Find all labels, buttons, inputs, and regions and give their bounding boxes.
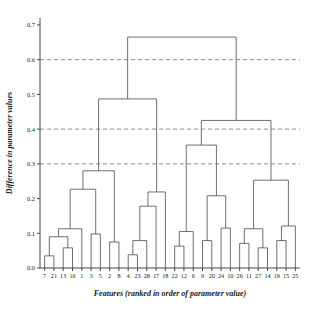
- dendrogram-link: [240, 243, 249, 268]
- dendrogram-link: [221, 228, 230, 268]
- leaf-label-14: 14: [264, 272, 270, 279]
- dendrogram-link: [254, 180, 289, 229]
- leaf-label-13: 13: [60, 272, 66, 279]
- dendrogram-link: [244, 229, 263, 248]
- dendrogram-link: [207, 196, 226, 241]
- leaf-label-18: 18: [162, 272, 168, 279]
- y-tick-label: 0.0: [27, 264, 35, 271]
- leaf-label-23: 23: [134, 272, 140, 279]
- dendrogram-link: [49, 237, 68, 256]
- dendrogram-link: [175, 246, 184, 268]
- dendrogram-link: [133, 241, 147, 268]
- leaf-label-6: 6: [192, 272, 195, 279]
- dendrogram-link: [186, 145, 216, 231]
- dendrogram-link: [281, 226, 295, 268]
- x-axis-title: Features (ranked in order of parameter v…: [93, 289, 247, 298]
- leaf-label-15: 15: [283, 272, 289, 279]
- leaf-label-4: 4: [127, 272, 130, 279]
- dendrogram-link: [148, 192, 165, 268]
- dendrogram-link: [258, 248, 267, 268]
- dendrogram-plot: 0.00.10.20.30.40.50.60.7 721131613528423…: [0, 0, 309, 312]
- dendrogram-link: [63, 248, 72, 268]
- leaf-label-17: 17: [153, 272, 159, 279]
- dendrogram-link: [128, 255, 137, 268]
- leaf-label-1: 1: [80, 272, 83, 279]
- reference-lines-group: [40, 60, 300, 164]
- leaf-label-3: 3: [90, 272, 93, 279]
- leaf-label-22: 22: [172, 272, 178, 279]
- leaf-label-16: 16: [69, 272, 75, 279]
- dendrogram-link: [83, 171, 114, 242]
- y-tick-label: 0.1: [27, 230, 35, 237]
- leaf-label-8: 8: [117, 272, 120, 279]
- dendrogram-link: [99, 99, 157, 192]
- dendrogram-link: [59, 229, 82, 268]
- dendrogram-link: [70, 189, 96, 234]
- leaf-label-2: 2: [108, 272, 111, 279]
- leaf-label-24: 24: [218, 272, 224, 279]
- leaf-label-28: 28: [144, 272, 150, 279]
- leaf-label-10: 10: [227, 272, 233, 279]
- y-tick-label: 0.5: [27, 91, 35, 98]
- leaf-label-26: 26: [237, 272, 243, 279]
- leaf-label-27: 27: [255, 272, 261, 279]
- dendrogram-link: [140, 206, 156, 268]
- dendrogram-links-group: [45, 37, 296, 268]
- x-axis: [40, 268, 300, 271]
- y-tick-label: 0.4: [27, 126, 36, 133]
- dendrogram-link: [179, 232, 193, 268]
- dendrogram-figure: 0.00.10.20.30.40.50.60.7 721131613528423…: [0, 0, 309, 312]
- leaf-label-11: 11: [246, 272, 252, 279]
- dendrogram-link: [110, 242, 119, 268]
- dendrogram-link: [277, 241, 286, 268]
- leaf-label-5: 5: [99, 272, 102, 279]
- dendrogram-link: [128, 37, 237, 120]
- leaf-label-21: 21: [51, 272, 57, 279]
- dendrogram-link: [91, 234, 100, 268]
- leaf-label-7: 7: [43, 272, 46, 279]
- leaf-label-25: 25: [292, 272, 298, 279]
- leaf-label-19: 19: [274, 272, 280, 279]
- leaf-label-9: 9: [201, 272, 204, 279]
- y-axis-title: Difference in parameter values: [5, 92, 14, 195]
- leaf-label-12: 12: [181, 272, 187, 279]
- y-tick-label: 0.3: [27, 160, 35, 167]
- dendrogram-link: [45, 256, 54, 268]
- y-tick-label: 0.6: [27, 56, 35, 63]
- y-axis: 0.00.10.20.30.40.50.60.7: [27, 18, 40, 271]
- leaf-labels-group: 7211316135284232817182212692024102611271…: [43, 272, 298, 279]
- y-tick-label: 0.7: [27, 21, 36, 28]
- leaf-label-20: 20: [209, 272, 215, 279]
- y-tick-label: 0.2: [27, 195, 35, 202]
- dendrogram-link: [203, 241, 212, 268]
